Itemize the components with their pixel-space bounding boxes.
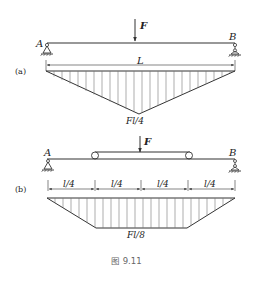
roller-icon <box>186 152 193 159</box>
moment-max-label-b: Fl/8 <box>126 230 145 240</box>
moment-diagram-a <box>46 71 235 114</box>
segment-label: l/4 <box>204 179 216 189</box>
support-label-b: B <box>228 31 236 42</box>
auxiliary-beam <box>92 152 193 159</box>
support-label-b: B <box>228 147 236 158</box>
diagram-a: F A B <box>15 19 241 126</box>
load-label: F <box>143 136 152 147</box>
diagram-b: F A <box>15 136 241 240</box>
span-label: L <box>136 55 144 66</box>
support-label-a: A <box>43 147 51 158</box>
roller-support-icon <box>229 160 242 174</box>
beam-moment-diagram: F A B <box>0 0 259 281</box>
diagram-b-label: (b) <box>15 185 26 194</box>
segment-label: l/4 <box>157 179 169 189</box>
diagram-a-label: (a) <box>15 67 26 76</box>
pin-support-icon <box>42 160 55 173</box>
moment-max-label-a: Fl/4 <box>125 116 144 126</box>
segment-label: l/4 <box>111 179 123 189</box>
load-label: F <box>139 20 148 31</box>
moment-diagram-b <box>47 198 235 228</box>
segment-label: l/4 <box>63 179 75 189</box>
roller-support-icon <box>229 43 242 57</box>
support-label-a: A <box>35 38 43 49</box>
roller-icon <box>92 152 99 159</box>
figure-caption: 图 9.11 <box>111 256 142 266</box>
